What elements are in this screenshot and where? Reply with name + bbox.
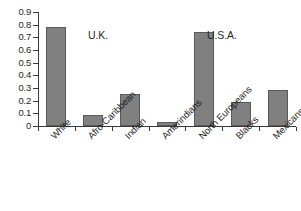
y-axis-tick-label: 0.2 — [0, 96, 31, 106]
x-axis-tick — [222, 127, 223, 131]
y-axis-tick-label: 0.3 — [0, 83, 31, 93]
group-annotation: U.S.A. — [207, 30, 237, 41]
bar — [46, 27, 66, 126]
y-axis-tick-label: 0.6 — [0, 45, 31, 55]
x-axis-tick — [112, 127, 113, 131]
bars-layer — [38, 12, 296, 126]
y-axis-tick-label: 0.1 — [0, 108, 31, 118]
y-axis-tick-label: 0.7 — [0, 32, 31, 42]
x-axis-tick — [185, 127, 186, 131]
y-axis-tick-label: 0.5 — [0, 58, 31, 68]
x-axis-tick — [149, 127, 150, 131]
y-axis-tick-label: 0 — [0, 121, 31, 131]
bar-chart: 00.10.20.30.40.50.60.70.80.9 WhiteAfro-C… — [0, 0, 301, 211]
y-axis-tick-label: 0.4 — [0, 70, 31, 80]
x-axis-tick — [38, 127, 39, 131]
group-annotation: U.K. — [88, 30, 108, 41]
x-axis-tick — [259, 127, 260, 131]
x-axis-tick — [296, 127, 297, 131]
bar — [194, 32, 214, 126]
y-axis-tick-label: 0.8 — [0, 20, 31, 30]
x-axis-tick — [75, 127, 76, 131]
y-axis-tick-label: 0.9 — [0, 7, 31, 17]
